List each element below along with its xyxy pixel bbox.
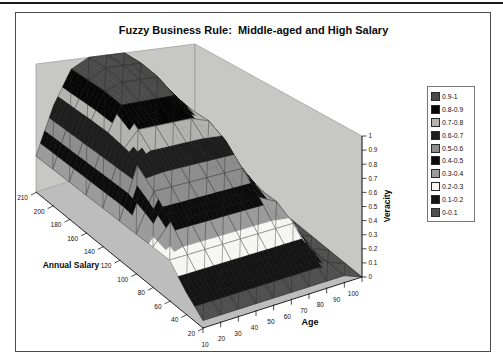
x-tick-label: 20 [218, 335, 226, 342]
legend-swatch [431, 92, 440, 101]
legend-item: 0.6-0.7 [431, 129, 473, 142]
legend-item-label: 0.2-0.3 [442, 183, 463, 190]
z-tick-label: 0.3 [369, 231, 378, 238]
legend-item-label: 0-0.1 [442, 209, 458, 216]
legend-item-label: 0.8-0.9 [442, 106, 463, 113]
x-tick-label: 90 [333, 296, 341, 303]
y-tick [81, 233, 87, 236]
legend-item: 0.7-0.8 [431, 116, 473, 129]
legend-item-label: 0.4-0.5 [442, 157, 463, 164]
y-tick-label: 40 [171, 316, 179, 323]
x-axis-title: Age [288, 317, 332, 327]
y-tick-label: 80 [138, 289, 146, 296]
legend-item: 0.3-0.4 [431, 167, 473, 180]
z-tick-label: 0 [369, 273, 373, 280]
legend-swatch [431, 105, 440, 114]
legend-swatch [431, 131, 440, 140]
y-tick-label: 20 [188, 330, 196, 337]
x-tick-label: 100 [348, 290, 359, 297]
y-tick [181, 314, 187, 317]
legend-item-label: 0.3-0.4 [442, 170, 463, 177]
y-tick [98, 246, 104, 249]
legend-swatch [431, 156, 440, 165]
y-axis-title: Annual Salary [26, 260, 116, 270]
legend-swatch [431, 169, 440, 178]
z-tick-label: 1 [369, 132, 373, 139]
legend-item-label: 0.7-0.8 [442, 119, 463, 126]
y-tick-label: 210 [17, 194, 28, 201]
z-tick-label: 0.8 [369, 161, 378, 168]
x-tick-label: 30 [234, 330, 242, 337]
legend-swatch [431, 118, 440, 127]
legend-item: 0.1-0.2 [431, 193, 473, 206]
z-tick-label: 0.7 [369, 175, 378, 182]
legend-swatch [431, 182, 440, 191]
y-tick [131, 274, 137, 277]
z-tick-label: 0.2 [369, 245, 378, 252]
y-tick-label: 60 [154, 303, 162, 310]
legend: 0.9-10.8-0.90.7-0.80.6-0.70.5-0.60.4-0.5… [427, 86, 475, 222]
x-tick-label: 80 [317, 301, 325, 308]
y-tick [48, 206, 54, 209]
legend-item-label: 0.1-0.2 [442, 196, 463, 203]
legend-item: 0.5-0.6 [431, 142, 473, 155]
x-tick-label: 10 [201, 341, 209, 348]
legend-item: 0.8-0.9 [431, 103, 473, 116]
z-tick-label: 0.4 [369, 217, 378, 224]
z-tick-label: 0.9 [369, 146, 378, 153]
z-tick-label: 0.5 [369, 203, 378, 210]
legend-item-label: 0.5-0.6 [442, 145, 463, 152]
y-tick-label: 100 [117, 276, 128, 283]
y-tick [31, 192, 37, 195]
legend-item-label: 0.6-0.7 [442, 132, 463, 139]
y-tick [165, 301, 171, 304]
legend-swatch [431, 208, 440, 217]
y-tick-label: 140 [84, 248, 95, 255]
chart-figure: Fuzzy Business Rule: Middle-aged and Hig… [0, 0, 503, 364]
legend-item: 0.9-1 [431, 90, 473, 103]
x-tick-label: 70 [300, 307, 308, 314]
y-tick-label: 180 [51, 221, 62, 228]
legend-swatch [431, 144, 440, 153]
legend-item-label: 0.9-1 [442, 93, 458, 100]
z-tick-label: 0.1 [369, 259, 378, 266]
x-tick-label: 50 [267, 318, 275, 325]
legend-swatch [431, 195, 440, 204]
x-tick-label: 40 [251, 324, 259, 331]
y-tick-label: 160 [67, 235, 78, 242]
z-axis-title: Veracity [382, 180, 392, 232]
legend-item: 0.4-0.5 [431, 154, 473, 167]
y-tick-label: 200 [34, 208, 45, 215]
z-tick-label: 0.6 [369, 189, 378, 196]
y-tick [64, 219, 70, 222]
legend-item: 0-0.1 [431, 206, 473, 219]
y-tick [148, 287, 154, 290]
legend-item: 0.2-0.3 [431, 180, 473, 193]
